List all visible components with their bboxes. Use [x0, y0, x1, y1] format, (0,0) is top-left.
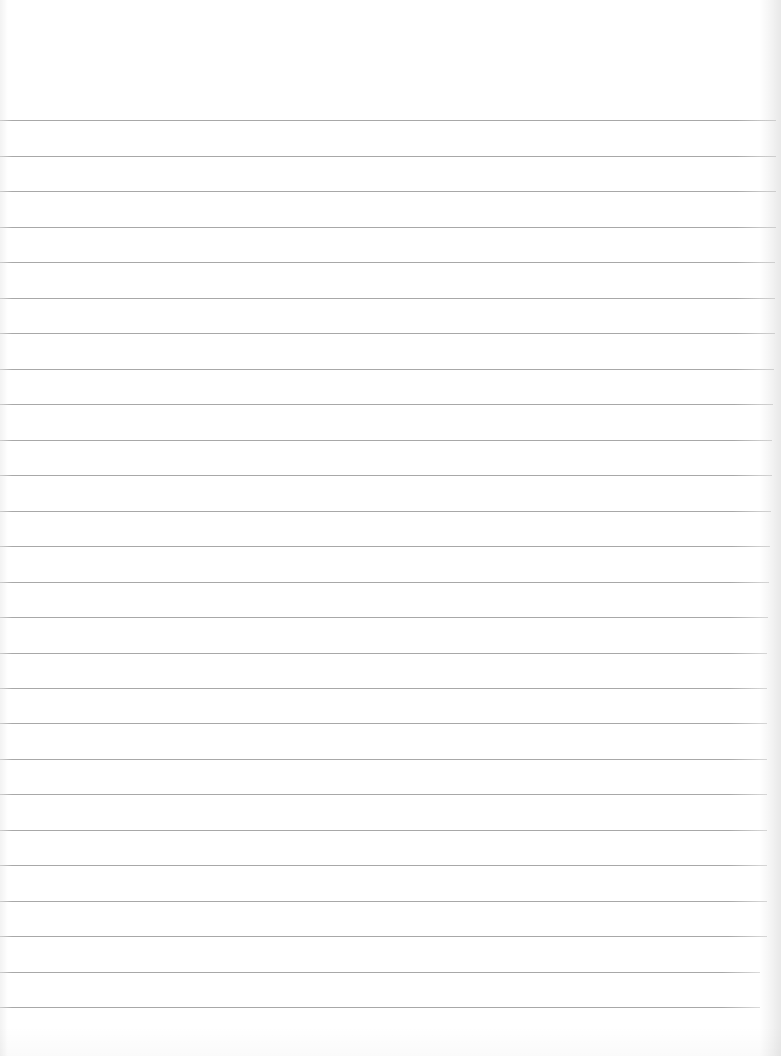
ruled-line — [0, 404, 773, 405]
ruled-line — [0, 298, 775, 299]
ruled-line — [0, 936, 767, 937]
ruled-line — [0, 227, 776, 228]
page-bottom-edge-shadow — [0, 1026, 781, 1056]
lined-notepad-page — [0, 0, 781, 1056]
ruled-line — [0, 369, 774, 370]
ruled-line — [0, 262, 775, 263]
ruled-line — [0, 582, 769, 583]
ruled-line — [0, 901, 767, 902]
ruled-line — [0, 865, 767, 866]
ruled-line — [0, 191, 776, 192]
ruled-line — [0, 653, 767, 654]
ruled-line — [0, 688, 767, 689]
ruled-line — [0, 333, 775, 334]
ruled-line — [0, 1007, 760, 1008]
ruled-line — [0, 120, 776, 121]
ruled-line — [0, 617, 768, 618]
ruled-line — [0, 723, 767, 724]
ruled-line — [0, 830, 767, 831]
ruled-line — [0, 972, 760, 973]
ruled-line — [0, 156, 776, 157]
ruled-line — [0, 511, 771, 512]
ruled-line — [0, 759, 767, 760]
ruled-line — [0, 475, 772, 476]
ruled-line — [0, 794, 767, 795]
page-left-edge-shadow — [0, 0, 8, 1056]
ruled-line — [0, 546, 770, 547]
page-curl-edge-shadow — [759, 0, 781, 1056]
ruled-line — [0, 440, 772, 441]
